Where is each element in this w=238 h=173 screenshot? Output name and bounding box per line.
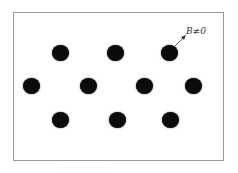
figure-caption: · · · · · · · · · · · · · [60,164,108,171]
annotation-label: B≠0 [186,26,206,36]
